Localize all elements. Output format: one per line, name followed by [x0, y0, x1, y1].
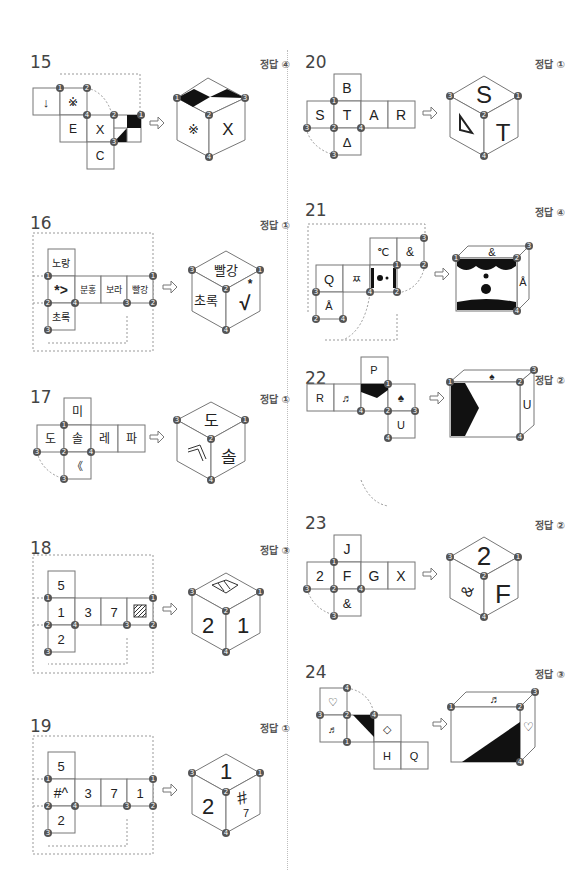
svg-text:1: 1 [516, 553, 520, 561]
svg-text:4: 4 [224, 648, 229, 656]
svg-text:2: 2 [62, 448, 66, 456]
svg-text:3: 3 [84, 786, 91, 801]
problem-21: 21 정답 ④ ℃ & Q ㅉ Å 3 1 2 3 4 2 2 4 [305, 200, 565, 360]
svg-text:U: U [523, 398, 532, 412]
svg-text:&: & [343, 596, 352, 611]
svg-text:R: R [316, 392, 324, 404]
svg-text:2: 2 [151, 299, 155, 307]
svg-text:4: 4 [368, 288, 373, 296]
svg-text:※: ※ [188, 122, 199, 137]
svg-text:3: 3 [448, 553, 452, 561]
svg-text:2: 2 [515, 254, 519, 262]
svg-text:♡: ♡ [328, 696, 338, 708]
svg-text:4: 4 [482, 613, 487, 621]
svg-text:4: 4 [359, 407, 364, 415]
svg-text:3: 3 [332, 612, 336, 620]
svg-text:1: 1 [449, 703, 453, 711]
svg-text:3: 3 [190, 266, 194, 274]
svg-text:1: 1 [243, 416, 247, 424]
svg-text:◇: ◇ [383, 723, 392, 735]
hatched-square-icon [134, 605, 146, 617]
svg-text:1: 1 [454, 254, 458, 262]
svg-text:2: 2 [518, 703, 522, 711]
svg-text:3: 3 [46, 648, 50, 656]
svg-text:Å: Å [325, 300, 333, 312]
svg-text:3: 3 [318, 711, 322, 719]
svg-text:&: & [488, 246, 496, 258]
svg-text:1: 1 [386, 380, 390, 388]
svg-text:3: 3 [35, 448, 39, 456]
svg-text:3: 3 [413, 407, 417, 415]
svg-text:2: 2 [345, 711, 349, 719]
svg-text:2: 2 [395, 288, 399, 296]
cube-net-diagram: 5 #^ 3 7 1 2 1 1 2 4 3 2 3 1 2 # 7 3 1 2… [30, 716, 290, 866]
cube-answer: ※ X 1 3 2 4 [173, 78, 249, 161]
svg-text:3: 3 [448, 92, 452, 100]
cube-net-diagram: 노랑 *> 분홍 보라 빨강 초록 1 1 2 4 3 2 3 빨강 초록 √ … [30, 213, 290, 373]
svg-text:2: 2 [112, 111, 116, 119]
svg-text:&: & [406, 245, 414, 259]
svg-text:4: 4 [515, 307, 520, 315]
svg-text:1: 1 [151, 775, 155, 783]
svg-text:2: 2 [482, 111, 486, 119]
svg-text:H: H [383, 750, 391, 762]
svg-text:4: 4 [386, 434, 391, 442]
cube-answer: 2 & F 3 1 2 4 [446, 537, 522, 621]
problem-24: 24 정답 ③ ♡ ♬ ◇ H Q 4 3 2 4 1 ♬ ♡ 1 [305, 662, 565, 822]
svg-text:분홍: 분홍 [80, 284, 96, 295]
svg-text:3: 3 [125, 621, 129, 629]
svg-text:1: 1 [332, 97, 336, 105]
svg-text:3: 3 [84, 605, 91, 620]
svg-text:3: 3 [533, 688, 537, 696]
svg-text:1: 1 [46, 272, 50, 280]
svg-text:3: 3 [305, 585, 309, 593]
svg-text:2: 2 [224, 788, 228, 796]
problem-18: 18 정답 ③ 5 1 3 7 2 1 1 2 4 3 2 3 [30, 538, 290, 698]
svg-text:1: 1 [46, 775, 50, 783]
net-cell-e: E [69, 122, 77, 136]
svg-text:Δ: Δ [343, 135, 352, 150]
cube-answer: 2 1 3 1 2 4 [188, 573, 264, 656]
cube-net-diagram: ℃ & Q ㅉ Å 3 1 2 3 4 2 2 4 & Å 1 2 3 [305, 200, 565, 360]
svg-text:1: 1 [46, 594, 50, 602]
svg-text:5: 5 [57, 759, 64, 774]
svg-text:7: 7 [243, 807, 249, 819]
svg-text:A: A [369, 107, 379, 123]
svg-text:G: G [369, 568, 380, 584]
arrow-right-icon [150, 117, 164, 129]
svg-text:빨강: 빨강 [132, 285, 148, 295]
svg-text:3: 3 [125, 299, 129, 307]
svg-text:ㅉ: ㅉ [352, 274, 361, 285]
svg-text:S: S [476, 81, 492, 108]
svg-text:레: 레 [99, 432, 110, 446]
svg-text:2: 2 [386, 407, 390, 415]
svg-text:1: 1 [395, 261, 399, 269]
svg-text:3: 3 [46, 326, 50, 334]
arrow-right-icon [430, 392, 444, 404]
svg-text:3: 3 [62, 475, 66, 483]
svg-text:1: 1 [258, 769, 262, 777]
net-cell-c: C [96, 149, 105, 163]
svg-text:파: 파 [126, 432, 137, 446]
problem-17: 17 정답 ① 미 도 솔 레 파 《 1 3 2 4 3 도 솔 [30, 387, 290, 547]
svg-text:3: 3 [190, 588, 194, 596]
cube-net-diagram: 5 1 3 7 2 1 1 2 4 3 2 3 2 1 3 1 2 4 [30, 538, 290, 688]
svg-text:X: X [222, 120, 233, 139]
svg-text:3: 3 [125, 802, 129, 810]
svg-text:1: 1 [237, 613, 249, 638]
problem-19: 19 정답 ① 5 #^ 3 7 1 2 1 1 2 4 3 2 3 1 [30, 716, 290, 876]
cube-answer: 도 솔 3 1 2 4 [173, 402, 249, 484]
svg-text:1: 1 [139, 111, 143, 119]
svg-text:4: 4 [518, 433, 523, 441]
svg-text:3: 3 [243, 94, 247, 102]
svg-text:3: 3 [332, 151, 336, 159]
svg-text:F: F [343, 568, 352, 584]
svg-text:1: 1 [345, 738, 349, 746]
svg-text:2: 2 [314, 315, 318, 323]
problem-22: 22 정답 ② P R ♬ ♠ U 1 4 2 3 4 ♠ U 1 [305, 368, 565, 528]
arrow-right-icon [433, 718, 447, 730]
svg-text:1: 1 [175, 94, 179, 102]
svg-text:2: 2 [207, 111, 211, 119]
svg-text:빨강: 빨강 [214, 263, 238, 278]
svg-text:2: 2 [202, 794, 214, 819]
